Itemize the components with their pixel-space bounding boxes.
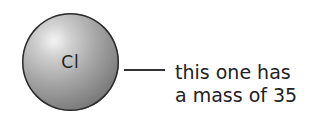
annotation-line-1: this one has [175,61,297,84]
annotation-line-2: a mass of 35 [175,84,297,107]
atom-symbol: Cl [22,13,119,111]
leader-line [124,69,165,71]
chlorine-atom: Cl [22,13,119,111]
mass-annotation: this one has a mass of 35 [175,61,297,107]
